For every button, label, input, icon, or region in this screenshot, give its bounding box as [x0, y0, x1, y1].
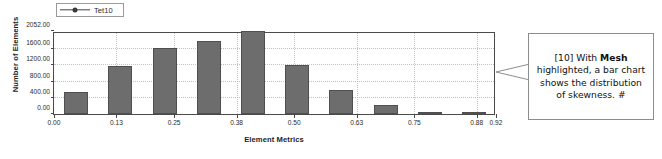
bar [108, 66, 132, 114]
y-axis-tick-label: 1200.00 [26, 55, 50, 62]
x-axis-tick-label: 0.92 [490, 119, 503, 126]
x-axis-tick-label: 0.75 [408, 119, 421, 126]
x-axis-tick-label: 0.25 [168, 119, 181, 126]
bar [285, 65, 309, 114]
y-axis-tick-label: 1600.00 [26, 39, 50, 46]
x-axis-tick-label: 0.50 [288, 119, 301, 126]
bar [241, 31, 265, 114]
annotation-prefix: [10] With [555, 52, 601, 63]
x-axis-tick-mark [357, 114, 358, 118]
annotation-callout: [10] With Mesh highlighted, a bar chart … [528, 33, 654, 120]
x-axis-tick-label: 0.63 [350, 119, 363, 126]
x-axis-tick-mark [237, 114, 238, 118]
plot-area: 0.00400.00800.001200.001600.002052.00 0.… [53, 32, 495, 115]
bar [374, 105, 398, 114]
y-axis-tick-label: 2052.00 [26, 21, 50, 28]
y-axis-tick-mark [51, 30, 54, 31]
x-axis-tick-mark [294, 114, 295, 118]
annotation-suffix: highlighted, a bar chart shows the distr… [537, 64, 645, 100]
x-axis-tick-mark [496, 114, 497, 118]
y-axis-tick-label: 400.00 [30, 87, 50, 94]
bar [329, 90, 353, 114]
bar [197, 41, 221, 114]
x-axis-tick-label: 0.13 [110, 119, 123, 126]
x-axis-tick-mark [54, 114, 55, 118]
annotation-text: [10] With Mesh highlighted, a bar chart … [529, 52, 653, 102]
bar [64, 92, 88, 114]
bar [418, 112, 442, 114]
bar-series [54, 33, 494, 114]
x-axis-tick-mark [116, 114, 117, 118]
x-axis-tick-label: 0.00 [48, 119, 61, 126]
chart-legend: Tet10 [56, 3, 124, 17]
legend-marker-icon [60, 5, 90, 15]
x-axis-tick-mark [477, 114, 478, 118]
y-axis-tick-label: 0.00 [37, 104, 50, 111]
legend-series-label: Tet10 [94, 6, 113, 15]
x-axis-tick-mark [174, 114, 175, 118]
x-axis-tick-mark [414, 114, 415, 118]
x-axis-title: Element Metrics [53, 135, 495, 144]
bar-chart: Number of Elements 0.00400.00800.001200.… [0, 22, 510, 159]
bar [153, 48, 177, 114]
bar [462, 112, 486, 114]
y-axis-title: Number of Elements [11, 7, 20, 103]
x-axis-tick-label: 0.88 [470, 119, 483, 126]
annotation-emphasis: Mesh [600, 52, 627, 63]
x-axis-tick-label: 0.38 [230, 119, 243, 126]
y-axis-tick-label: 800.00 [30, 71, 50, 78]
